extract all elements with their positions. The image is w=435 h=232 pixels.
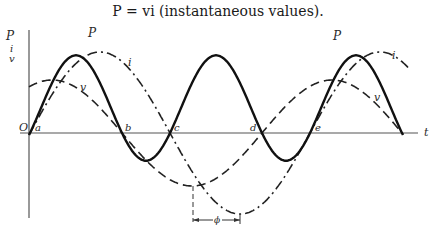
point-label-b: b (125, 122, 131, 133)
curve-label-i: i (128, 56, 132, 69)
curve-label-v: v (80, 81, 87, 94)
curve-label-P: P (332, 29, 342, 43)
origin-label: O (19, 121, 28, 134)
phase-label: ϕ (214, 215, 220, 225)
curve-labels: PivPiv (80, 26, 396, 104)
y-label-v: v (9, 53, 15, 64)
x-axis-label: t (424, 126, 429, 139)
phase-marker: ϕ (193, 186, 240, 225)
point-label-d: d (250, 122, 256, 133)
power-waveform-diagram: P = vi (instantaneous values). P i v O t… (0, 0, 435, 232)
crossing-point-labels: abcde (35, 122, 321, 133)
curve-label-P: P (87, 26, 97, 40)
power-curve (29, 55, 403, 160)
point-label-c: c (174, 122, 180, 133)
curve-label-v: v (374, 91, 381, 104)
point-label-a: a (35, 122, 41, 133)
figure-title: P = vi (instantaneous values). (112, 3, 324, 19)
y-label-p: P (5, 29, 15, 43)
curve-label-i: i (392, 49, 396, 62)
point-label-e: e (315, 122, 321, 133)
